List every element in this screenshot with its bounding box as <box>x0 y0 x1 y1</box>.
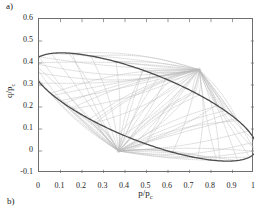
y-axis-label: q/pc <box>4 63 16 119</box>
chart-canvas <box>39 19 254 173</box>
y-tick-label: 0 <box>1 146 33 154</box>
panel-label-b: b) <box>7 196 15 206</box>
y-tick-label: 0.6 <box>1 14 33 22</box>
y-tick-label: 0.5 <box>1 36 33 44</box>
y-tick-label: 0.1 <box>1 124 33 132</box>
figure-panel-a: a) b) -0.100.10.20.30.40.50.6 00.10.20.3… <box>0 0 261 212</box>
x-axis-label: p/pc <box>38 188 253 200</box>
panel-label-a: a) <box>6 1 13 11</box>
x-axis-tick-labels: 00.10.20.30.40.50.60.70.80.91 <box>38 174 253 188</box>
plot-area <box>38 18 253 172</box>
